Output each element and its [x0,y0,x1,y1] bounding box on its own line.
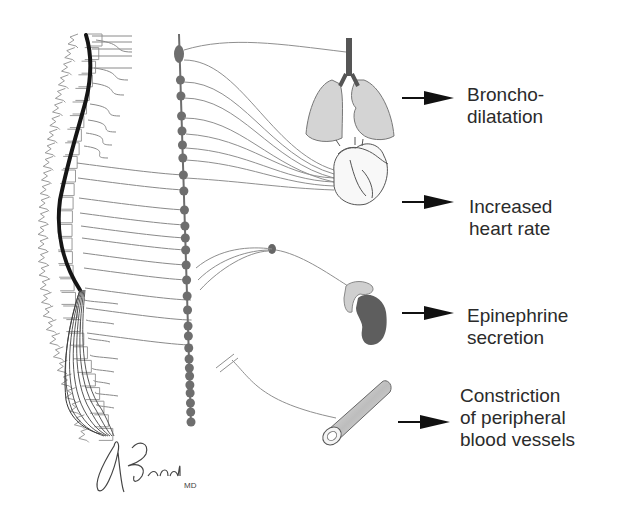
vertebra [43,156,77,170]
spinal-nerve [81,226,189,238]
lumbar-nerve [90,355,118,359]
effect-line: Broncho- [467,84,544,106]
lumbar-nerve [88,338,110,342]
spinal-nerve [87,333,192,345]
vertebra [41,170,75,184]
spinal-nerve [80,213,189,225]
effect-line: Increased [469,196,552,218]
cauda-equina-fibers [66,290,114,436]
effect-line: heart rate [469,218,552,240]
spinal-nerve [78,178,188,190]
spinal-nerve [84,146,108,158]
adrenal-kidney-icon [344,282,387,346]
arrow-icon [402,91,454,105]
sympathetic-ganglia [174,45,196,427]
spinal-nerve [79,198,188,210]
arrow-head [424,91,454,105]
heart-icon [334,137,388,205]
spinal-nerve [90,104,120,116]
spinal-nerve [86,308,192,320]
lungs-icon [306,38,394,141]
vertebra [41,292,75,306]
fiber-to-heart [186,160,334,186]
ganglion [184,344,193,353]
ganglion [180,222,189,231]
ganglion [181,234,190,243]
vertebra [38,211,72,225]
ganglion [185,355,194,364]
cauda-equina [65,290,100,434]
effect-line: Epinephrine [467,305,568,327]
ganglion [183,306,192,315]
spinal-nerve [77,163,187,175]
blood-vessel-icon [319,381,391,449]
ganglion [177,112,186,121]
spinal-nerve [88,120,116,132]
arrow-head [424,306,454,320]
ganglion [185,381,194,390]
ganglion [186,389,195,398]
effect-label-vasoconstriction: Constriction of peripheral blood vessels [460,385,575,451]
arrow-head [420,415,450,429]
effect-label-epinephrine: Epinephrine secretion [467,305,568,349]
ganglion [176,92,185,101]
ganglion [185,372,194,381]
superior-cervical-ganglion [174,45,184,63]
lumbar-nerve [86,320,114,324]
vertebra [38,224,72,238]
arrow-icon [402,195,454,209]
ganglion [176,76,185,85]
fiber-to-lungs [184,42,346,52]
effect-line: secretion [467,327,568,349]
effect-label-heart-rate: Increased heart rate [469,196,552,240]
lumbar-nerve [94,380,110,384]
lumbar-nerve [95,392,118,396]
ganglion [179,187,188,196]
ganglion [184,332,193,341]
spinal-nerve [82,238,189,250]
spinal-nerve [84,268,190,280]
ganglion [185,364,194,373]
lumbar-nerve [92,368,114,372]
ganglion [186,399,195,408]
spinal-nerves [77,36,192,408]
signature-suffix: MD [184,481,197,490]
vertebra [40,184,74,198]
ganglion [181,246,190,255]
fiber-to-heart [186,134,334,178]
vertebra [65,48,99,62]
ganglion [180,206,189,215]
spinal-nerve [86,133,112,145]
vasomotor-fiber [216,354,336,418]
artist-signature: ABrada MD [84,432,224,502]
ganglion [186,408,195,417]
arrow-icon [398,415,450,429]
spinal-nerve [94,68,128,80]
ganglion [178,154,187,163]
lumbar-nerve [84,300,118,304]
spinal-nerve [85,288,191,300]
spinal-nerve [83,253,190,265]
effect-line: of peripheral [460,407,575,429]
ganglion [187,418,196,427]
vertebra [40,279,74,293]
cauda-fiber [70,290,106,436]
arrow-icon [402,306,454,320]
spinal-nerve [92,83,124,95]
adrenal-fibers [196,248,348,290]
effect-label-bronchodilatation: Broncho- dilatation [467,84,544,128]
vertebra [38,238,72,252]
ganglion [182,276,191,285]
ganglion [184,322,193,331]
ganglion [178,127,187,136]
ganglion [182,261,191,270]
effect-line: Constriction [460,385,575,407]
ganglion [178,141,187,150]
ganglion [183,292,192,301]
vertebra [39,197,73,211]
effect-line: blood vessels [460,429,575,451]
arrow-head [424,195,454,209]
effect-line: dilatation [467,106,544,128]
